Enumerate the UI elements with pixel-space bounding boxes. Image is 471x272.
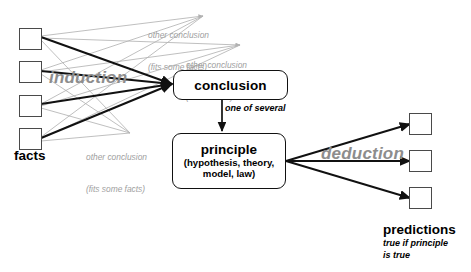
alt-note-3-line2: (fits some facts)	[86, 184, 147, 195]
conclusion-node[interactable]: conclusion	[173, 70, 288, 100]
alt-note-2-line1: other conclusion	[186, 60, 247, 71]
predictions-sublabel: true if principle is true	[383, 238, 448, 261]
facts-label: facts	[14, 148, 46, 163]
prediction-1[interactable]	[409, 113, 432, 135]
alt-note-3-line1: other conclusion	[86, 152, 147, 163]
principle-title: principle	[201, 142, 257, 157]
conclusion-title: conclusion	[194, 78, 266, 93]
prediction-3[interactable]	[409, 187, 432, 209]
fact-1[interactable]	[19, 28, 42, 50]
diagram-canvas: facts other conclusion (fits some facts)…	[0, 0, 471, 272]
predictions-label: predictions	[383, 222, 456, 237]
principle-subtitle: (hypothesis, theory, model, law)	[184, 158, 274, 179]
deduction-label: deduction	[321, 144, 404, 164]
alternate-conclusion-note-3: other conclusion (fits some facts)	[86, 130, 147, 216]
principle-node[interactable]: principle (hypothesis, theory, model, la…	[172, 133, 286, 189]
induction-label: induction	[49, 68, 127, 88]
fact-3[interactable]	[19, 95, 42, 117]
fact-4[interactable]	[19, 128, 42, 150]
prediction-2[interactable]	[409, 150, 432, 172]
one-of-several-label: one of several	[225, 103, 286, 115]
fact-2[interactable]	[19, 61, 42, 83]
